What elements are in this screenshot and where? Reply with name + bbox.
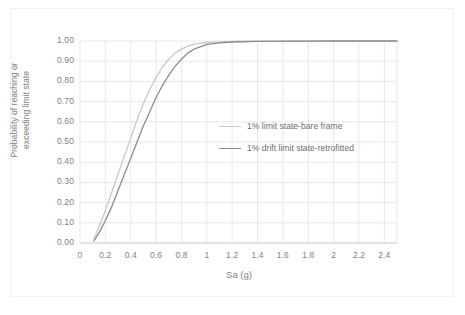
y-tick-label: 1.00	[48, 35, 74, 45]
x-tick-label: 0.6	[144, 250, 168, 260]
x-tick-label: 0	[68, 250, 92, 260]
y-axis-title: Probability of reaching or exceeding lim…	[8, 30, 32, 190]
legend-swatch-bare-frame	[219, 126, 241, 127]
x-tick-label: 2	[322, 250, 346, 260]
x-tick-label: 0.4	[119, 250, 143, 260]
y-axis-title-line-1: Probability of reaching or	[8, 30, 20, 190]
legend-label-retrofitted: 1% drift limit state-retrofitted	[247, 143, 354, 153]
x-tick-label: 1.8	[296, 250, 320, 260]
y-tick-label: 0.80	[48, 75, 74, 85]
y-tick-label: 0.70	[48, 96, 74, 106]
x-tick-label: 1.4	[246, 250, 270, 260]
y-tick-label: 0.60	[48, 116, 74, 126]
chart-figure: 0.000.100.200.300.400.500.600.700.800.90…	[0, 0, 465, 315]
x-axis-title: Sa (g)	[80, 269, 398, 280]
y-tick-label: 0.00	[48, 237, 74, 247]
series-line-retrofitted	[94, 41, 397, 241]
y-tick-label: 0.20	[48, 197, 74, 207]
x-tick-label: 2.4	[372, 250, 396, 260]
x-tick-label: 0.2	[93, 250, 117, 260]
x-tick-label: 1.2	[220, 250, 244, 260]
y-tick-label: 0.30	[48, 176, 74, 186]
legend-swatch-retrofitted	[219, 148, 241, 149]
legend-item-retrofitted[interactable]: 1% drift limit state-retrofitted	[219, 143, 354, 153]
x-tick-label: 2.2	[347, 250, 371, 260]
legend-label-bare-frame: 1% limit state-bare frame	[247, 121, 343, 131]
y-tick-label: 0.50	[48, 136, 74, 146]
y-tick-label: 0.90	[48, 55, 74, 65]
legend-item-bare-frame[interactable]: 1% limit state-bare frame	[219, 121, 343, 131]
y-tick-label: 0.40	[48, 156, 74, 166]
y-axis-title-line-2: exceeding limit state	[20, 30, 32, 190]
x-tick-label: 0.8	[169, 250, 193, 260]
series-line-bare-frame	[94, 41, 397, 239]
y-tick-label: 0.10	[48, 217, 74, 227]
x-tick-label: 1	[195, 250, 219, 260]
x-tick-label: 1.6	[271, 250, 295, 260]
